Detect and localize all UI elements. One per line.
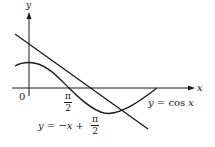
tangent-line-label: y = −x +	[38, 121, 87, 131]
fraction-numerator: π	[92, 115, 98, 124]
x-axis-arrow-icon	[188, 86, 195, 91]
cosine-label-var: x	[188, 97, 194, 108]
y-axis-arrow-icon	[27, 12, 32, 19]
graph-canvas	[0, 0, 215, 147]
tick-denominator: 2	[65, 104, 71, 113]
pi-over-2-tick-label: π 2	[64, 92, 72, 113]
tangent-line	[15, 34, 148, 129]
tick-numerator: π	[65, 92, 71, 101]
tangent-label-eq: = −	[44, 120, 67, 131]
y-axis-label: y	[26, 1, 31, 10]
origin-label: 0	[19, 92, 25, 102]
tangent-label-plus: +	[72, 120, 87, 131]
x-axis-label: x	[197, 83, 203, 93]
tangent-label-fraction: π 2	[91, 115, 99, 136]
cosine-label: yy = cos = cos x	[148, 98, 194, 108]
fraction-denominator: 2	[92, 127, 98, 136]
cosine-label-eq: = cos	[154, 97, 189, 108]
